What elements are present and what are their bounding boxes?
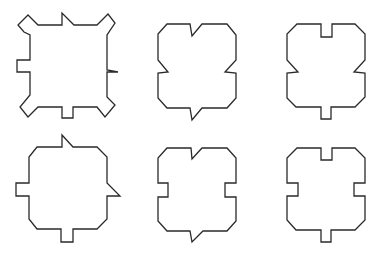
shape-6-outline	[287, 148, 365, 242]
shape-3-outline	[287, 24, 365, 119]
shape-4-outline	[16, 135, 120, 242]
shapes-diagram	[0, 0, 381, 254]
shape-2-outline	[158, 24, 236, 120]
shape-1-outline	[17, 13, 118, 118]
shape-5-outline	[158, 148, 236, 242]
figure-canvas	[0, 0, 381, 254]
